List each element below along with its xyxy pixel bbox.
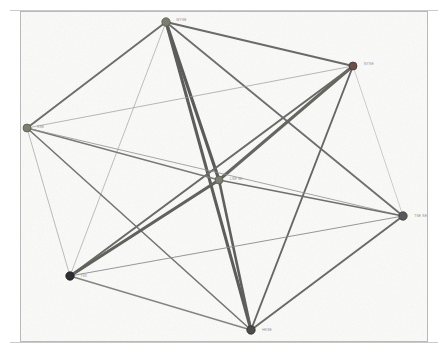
graph-node-label: HKSE xyxy=(262,328,272,332)
graph-node[interactable] xyxy=(66,272,74,280)
graph-node-label: NYSE xyxy=(364,62,374,66)
graph-node[interactable] xyxy=(399,212,407,220)
graph-node[interactable] xyxy=(23,124,31,132)
graph-node-label: LSE SE xyxy=(230,177,243,181)
graph-node-label: TSE SE xyxy=(414,214,428,218)
graph-node[interactable] xyxy=(247,326,255,334)
network-graph-canvas: WYSENYSESSELSE SETSE SETSXHKSE xyxy=(0,0,448,353)
graph-node-label: TSX xyxy=(80,274,88,278)
graph-node[interactable] xyxy=(162,18,170,26)
graph-node-label: SSE xyxy=(37,125,45,129)
network-graph-svg[interactable]: WYSENYSESSELSE SETSE SETSXHKSE xyxy=(0,0,448,353)
graph-node[interactable] xyxy=(215,176,223,184)
graph-node-label: WYSE xyxy=(176,18,187,22)
graph-node[interactable] xyxy=(349,62,357,70)
